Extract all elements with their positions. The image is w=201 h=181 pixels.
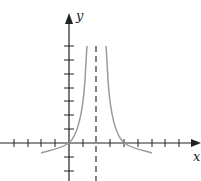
y-axis: y [64, 8, 84, 181]
x-axis-arrow-icon [191, 139, 201, 147]
curve-left-branch [41, 46, 87, 153]
y-axis-arrow-icon [65, 13, 73, 24]
x-axis: x [0, 139, 201, 164]
curve-right-branch [106, 46, 152, 153]
x-axis-label: x [193, 149, 201, 164]
function-graph: x y [0, 0, 201, 181]
y-axis-label: y [75, 8, 84, 23]
